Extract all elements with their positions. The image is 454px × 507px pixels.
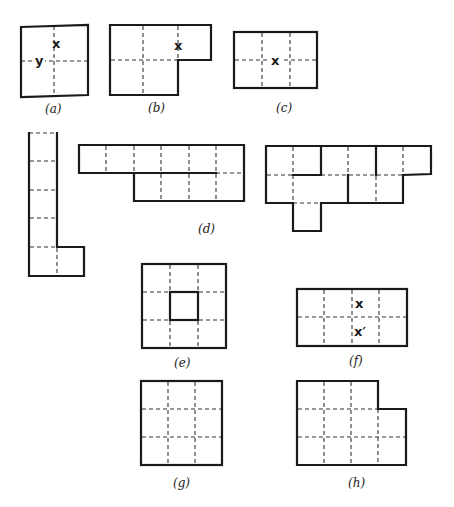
polyomino-diagram: x y (a) x (b) x (c) bbox=[0, 0, 454, 507]
caption-f: (f) bbox=[349, 354, 363, 368]
figure-e: (e) bbox=[142, 264, 226, 370]
outline bbox=[141, 381, 222, 465]
outline bbox=[142, 264, 226, 348]
caption-c: (c) bbox=[276, 101, 292, 115]
figure-b: x (b) bbox=[110, 25, 211, 115]
figure-c: x (c) bbox=[234, 32, 317, 115]
mark-x: x bbox=[355, 296, 364, 311]
caption-b: (b) bbox=[148, 101, 165, 115]
center-cell bbox=[170, 292, 198, 320]
piece-l-shape bbox=[29, 133, 84, 276]
mark-x: x bbox=[174, 38, 183, 53]
caption-g: (g) bbox=[173, 476, 190, 490]
outline bbox=[79, 145, 216, 173]
outline bbox=[29, 133, 84, 276]
piece-strip bbox=[79, 145, 244, 201]
figure-a: x y (a) bbox=[21, 25, 88, 116]
figure-g: (g) bbox=[141, 381, 222, 490]
internal-solid-line bbox=[293, 146, 321, 175]
caption-a: (a) bbox=[45, 102, 62, 116]
figure-h: (h) bbox=[297, 381, 406, 490]
mark-x: x bbox=[52, 36, 61, 51]
caption-e: (e) bbox=[174, 356, 191, 370]
piece-irregular bbox=[266, 146, 431, 231]
mark-x-prime: x′ bbox=[354, 324, 366, 339]
mark-y: y bbox=[35, 53, 44, 68]
figure-f: x x′ (f) bbox=[297, 289, 407, 368]
figure-d: (d) bbox=[29, 133, 431, 276]
caption-h: (h) bbox=[348, 476, 365, 490]
mark-x: x bbox=[271, 53, 280, 68]
caption-d: (d) bbox=[198, 222, 215, 236]
